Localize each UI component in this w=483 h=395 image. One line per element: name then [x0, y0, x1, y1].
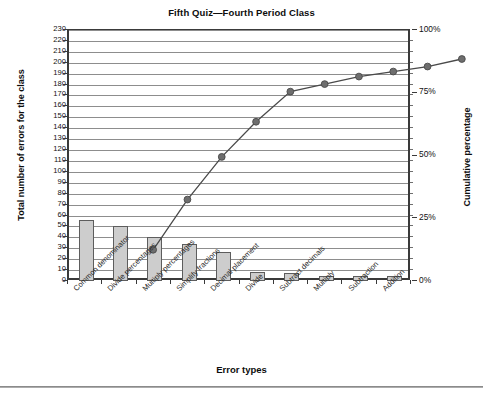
- y2-axis-minor-tick: [410, 269, 413, 270]
- y-axis-tick-label: 80: [32, 189, 66, 196]
- y-axis-tick-mark: [63, 138, 67, 139]
- x-axis-tick-mark: [239, 280, 240, 284]
- y-axis-tick-mark: [63, 236, 67, 237]
- x-axis-tick-mark: [273, 280, 274, 284]
- y-axis-tick-mark: [63, 182, 67, 183]
- line-marker: [390, 68, 397, 75]
- x-axis-tick-mark: [204, 280, 205, 284]
- y-axis-tick-mark: [63, 84, 67, 85]
- y-axis-tick-mark: [63, 29, 67, 30]
- y2-axis-tick-mark: [412, 155, 417, 156]
- y-axis-tick-label: 100: [32, 167, 66, 174]
- y-axis-tick-label: 30: [32, 243, 66, 250]
- line-marker: [218, 153, 225, 160]
- line-marker: [356, 73, 363, 80]
- y-axis-tick-mark: [63, 149, 67, 150]
- y2-axis-minor-tick: [410, 160, 413, 161]
- x-axis-tick-mark: [67, 280, 68, 284]
- line-marker: [184, 196, 191, 203]
- y2-axis-minor-tick: [410, 149, 413, 150]
- y-axis-tick-mark: [63, 94, 67, 95]
- y-axis-tick-mark: [63, 127, 67, 128]
- y2-axis-tick-label: 100%: [419, 25, 440, 33]
- y2-axis-minor-tick: [410, 73, 413, 74]
- gridline: [69, 52, 408, 53]
- x-axis-tick-mark: [341, 280, 342, 284]
- y2-axis-minor-tick: [410, 182, 413, 183]
- y-axis-tick-mark: [63, 204, 67, 205]
- y2-axis-minor-tick: [410, 84, 413, 85]
- y2-axis-minor-tick: [410, 247, 413, 248]
- x-axis-tick-mark: [410, 280, 411, 284]
- gridline: [69, 30, 408, 31]
- y2-axis-tick-label: 50%: [419, 150, 436, 158]
- chart-title: Fifth Quiz—Fourth Period Class: [0, 7, 483, 18]
- y-axis-tick-mark: [63, 62, 67, 63]
- y2-axis-minor-tick: [410, 62, 413, 63]
- y2-axis-tick-mark: [412, 29, 417, 30]
- y-axis-tick-mark: [63, 40, 67, 41]
- y2-axis-tick-mark: [412, 92, 417, 93]
- y-axis-tick-label: 20: [32, 254, 66, 261]
- y2-axis-tick-label: 75%: [419, 87, 436, 95]
- y2-axis-tick-label: 25%: [419, 213, 436, 221]
- y2-axis-minor-tick: [410, 94, 413, 95]
- y-axis-tick-label: 150: [32, 112, 66, 119]
- y-axis-tick-label: 180: [32, 80, 66, 87]
- y-axis-tick-label: 170: [32, 90, 66, 97]
- y-axis-tick-label: 230: [32, 25, 66, 32]
- y2-axis-minor-tick: [410, 40, 413, 41]
- y-axis-tick-label: 0: [32, 276, 66, 283]
- y2-axis-minor-tick: [410, 51, 413, 52]
- y2-axis-minor-tick: [410, 236, 413, 237]
- y-axis-tick-label: 160: [32, 101, 66, 108]
- x-axis-tick-mark: [376, 280, 377, 284]
- y-axis-tick-mark: [63, 171, 67, 172]
- line-marker: [321, 81, 328, 88]
- y-axis-tick-label: 120: [32, 145, 66, 152]
- y2-axis-minor-tick: [410, 215, 413, 216]
- x-axis-tick-mark: [136, 280, 137, 284]
- y-axis-tick-label: 130: [32, 134, 66, 141]
- y-axis-tick-mark: [63, 225, 67, 226]
- y-axis-tick-label: 200: [32, 58, 66, 65]
- y2-axis-minor-tick: [410, 138, 413, 139]
- x-axis-tick-mark: [101, 280, 102, 284]
- y-axis-tick-label: 50: [32, 221, 66, 228]
- x-axis-tick-mark: [307, 280, 308, 284]
- y-axis-tick-label: 210: [32, 47, 66, 54]
- pareto-chart-figure: Fifth Quiz—Fourth Period Class 010203040…: [0, 0, 483, 395]
- y-axis-title: Total number of errors for the class: [16, 30, 26, 260]
- y-axis-tick-label: 10: [32, 265, 66, 272]
- y-axis-tick-label: 140: [32, 123, 66, 130]
- line-marker: [424, 63, 431, 70]
- y2-axis-minor-tick: [410, 225, 413, 226]
- y2-axis-minor-tick: [410, 193, 413, 194]
- line-marker: [253, 118, 260, 125]
- y2-axis-minor-tick: [410, 105, 413, 106]
- y-axis-tick-label: 90: [32, 178, 66, 185]
- y2-axis-minor-tick: [410, 204, 413, 205]
- y2-axis-minor-tick: [410, 171, 413, 172]
- footer-divider: [0, 386, 483, 388]
- y-axis-tick-mark: [63, 51, 67, 52]
- y2-axis-minor-tick: [410, 116, 413, 117]
- y2-axis-tick-mark: [412, 217, 417, 218]
- y-axis-tick-mark: [63, 116, 67, 117]
- y-axis-tick-mark: [63, 105, 67, 106]
- y2-axis-tick-mark: [412, 280, 417, 281]
- y-axis-tick-mark: [63, 193, 67, 194]
- y-axis-tick-label: 110: [32, 156, 66, 163]
- y-axis-tick-mark: [63, 160, 67, 161]
- y-axis-tick-label: 190: [32, 69, 66, 76]
- y-axis-tick-mark: [63, 73, 67, 74]
- y-axis-tick-mark: [63, 269, 67, 270]
- x-axis-title: Error types: [0, 364, 483, 375]
- y2-axis-minor-tick: [410, 258, 413, 259]
- y-axis-tick-mark: [63, 215, 67, 216]
- line-marker: [287, 88, 294, 95]
- y-axis-tick-mark: [63, 247, 67, 248]
- y2-axis-title: Cumulative percentage: [462, 42, 472, 272]
- y2-axis-tick-label: 0%: [419, 276, 431, 284]
- y-axis-tick-label: 70: [32, 200, 66, 207]
